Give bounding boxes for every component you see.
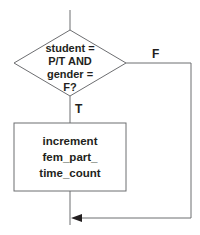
true-label: T: [75, 102, 83, 116]
flowchart: student = P/T AND gender = F? F T increm…: [0, 0, 200, 235]
process-line-1: increment: [43, 135, 98, 147]
decision-line-1: student =: [45, 42, 94, 54]
decision-line-4: F?: [63, 81, 77, 93]
process-line-3: time_count: [39, 167, 101, 179]
arrowhead-left-icon: [71, 214, 82, 222]
decision-line-2: P/T AND: [48, 55, 92, 67]
decision-line-3: gender =: [47, 68, 93, 80]
false-label: F: [152, 47, 159, 61]
process-line-2: fem_part_: [43, 151, 99, 163]
